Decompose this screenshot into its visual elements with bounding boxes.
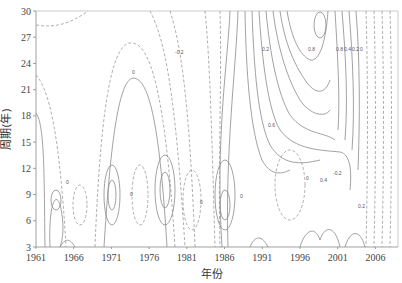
svg-text:0: 0 xyxy=(130,191,133,197)
x-tick-label: 2006 xyxy=(365,252,385,263)
x-tick-label: 1966 xyxy=(64,252,84,263)
svg-text:0: 0 xyxy=(66,179,69,185)
y-ticks: 36912151821242730 xyxy=(21,6,36,253)
y-axis-title: 周期(年) xyxy=(0,108,13,150)
svg-text:0.2: 0.2 xyxy=(358,203,365,209)
y-tick-label: 21 xyxy=(21,84,31,95)
svg-text:0: 0 xyxy=(132,69,135,75)
x-tick-label: 1996 xyxy=(290,252,310,263)
svg-text:-0.2: -0.2 xyxy=(175,49,184,55)
x-tick-label: 1991 xyxy=(252,252,272,263)
svg-text:0: 0 xyxy=(200,199,203,205)
svg-text:0: 0 xyxy=(360,46,363,52)
x-tick-label: 1981 xyxy=(177,252,197,263)
x-tick-label: 1971 xyxy=(101,252,121,263)
x-tick-label: 1986 xyxy=(215,252,235,263)
y-tick-label: 6 xyxy=(26,215,31,226)
y-tick-label: 24 xyxy=(21,58,31,69)
svg-text:0: 0 xyxy=(240,193,243,199)
svg-text:0: 0 xyxy=(306,175,309,181)
y-tick-label: 3 xyxy=(26,242,31,253)
y-tick-label: 18 xyxy=(21,110,31,121)
svg-text:0.6: 0.6 xyxy=(268,122,275,128)
wavelet-contour-chart: 36912151821242730 1961196619711976198119… xyxy=(0,0,402,283)
x-axis-title: 年份 xyxy=(201,267,223,281)
y-tick-label: 27 xyxy=(21,32,31,43)
x-tick-label: 2001 xyxy=(328,252,348,263)
x-ticks: 1961196619711976198119861991199620012006 xyxy=(26,247,385,263)
svg-text:0.8: 0.8 xyxy=(336,46,343,52)
svg-text:0.2: 0.2 xyxy=(262,46,269,52)
x-tick-label: 1961 xyxy=(26,252,46,263)
svg-text:0.8: 0.8 xyxy=(308,46,315,52)
y-tick-label: 15 xyxy=(21,137,31,148)
svg-text:0.4: 0.4 xyxy=(344,46,351,52)
y-tick-label: 30 xyxy=(21,6,31,17)
x-tick-label: 1976 xyxy=(139,252,159,263)
svg-text:0.2: 0.2 xyxy=(352,46,359,52)
y-tick-label: 12 xyxy=(21,163,31,174)
svg-text:0.4: 0.4 xyxy=(320,177,327,183)
svg-text:-0.2: -0.2 xyxy=(333,170,342,176)
y-tick-label: 9 xyxy=(26,189,31,200)
